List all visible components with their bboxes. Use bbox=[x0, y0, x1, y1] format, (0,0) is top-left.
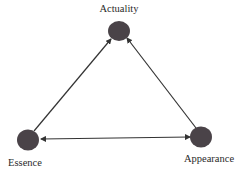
node-essence bbox=[17, 130, 39, 151]
triangle-diagram: Actuality Essence Appearance bbox=[0, 0, 244, 173]
edge-essence-actuality bbox=[34, 39, 111, 131]
label-actuality: Actuality bbox=[99, 3, 139, 14]
node-actuality bbox=[108, 21, 130, 41]
edge-appearance-actuality bbox=[127, 38, 196, 128]
diagram-canvas: Actuality Essence Appearance bbox=[0, 0, 244, 173]
label-appearance: Appearance bbox=[184, 153, 234, 164]
node-appearance bbox=[190, 127, 212, 148]
edge-essence-appearance bbox=[41, 137, 190, 139]
label-essence: Essence bbox=[8, 157, 42, 168]
